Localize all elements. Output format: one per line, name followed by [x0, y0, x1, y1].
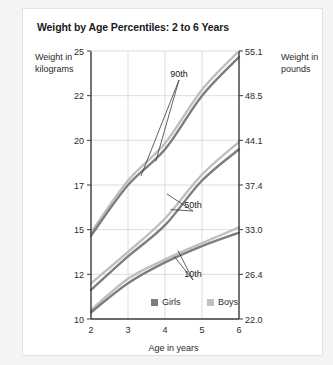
svg-text:17: 17: [74, 181, 84, 191]
svg-text:2: 2: [88, 325, 93, 335]
svg-text:10: 10: [74, 315, 84, 325]
svg-text:5: 5: [199, 325, 204, 335]
svg-text:15: 15: [74, 225, 84, 235]
chart-legend: GirlsBoys: [151, 297, 239, 307]
svg-text:12: 12: [74, 270, 84, 280]
svg-text:50th: 50th: [184, 200, 202, 210]
svg-text:20: 20: [74, 136, 84, 146]
svg-text:37.4: 37.4: [245, 181, 263, 191]
svg-text:4: 4: [162, 325, 167, 335]
svg-text:25: 25: [74, 47, 84, 57]
svg-text:55.1: 55.1: [245, 47, 263, 57]
svg-text:26.4: 26.4: [245, 270, 263, 280]
y-axis-ticks-right: 55.148.544.137.433.026.422.0: [239, 47, 263, 325]
svg-text:6: 6: [236, 325, 241, 335]
svg-text:33.0: 33.0: [245, 225, 263, 235]
weight-percentile-chart: 25222017151210 55.148.544.137.433.026.42…: [23, 9, 324, 357]
chart-card: Weight by Age Percentiles: 2 to 6 Years …: [22, 8, 323, 356]
svg-text:10th: 10th: [184, 269, 202, 279]
x-axis-ticks: 23456: [88, 325, 241, 335]
svg-text:44.1: 44.1: [245, 136, 263, 146]
y-axis-ticks-left: 25222017151210: [74, 47, 91, 325]
gridlines: [91, 51, 239, 319]
svg-text:48.5: 48.5: [245, 91, 263, 101]
svg-text:22: 22: [74, 91, 84, 101]
svg-text:Girls: Girls: [162, 297, 181, 307]
svg-text:90th: 90th: [170, 69, 188, 79]
svg-text:3: 3: [125, 325, 130, 335]
svg-text:Boys: Boys: [218, 297, 239, 307]
svg-text:22.0: 22.0: [245, 315, 263, 325]
